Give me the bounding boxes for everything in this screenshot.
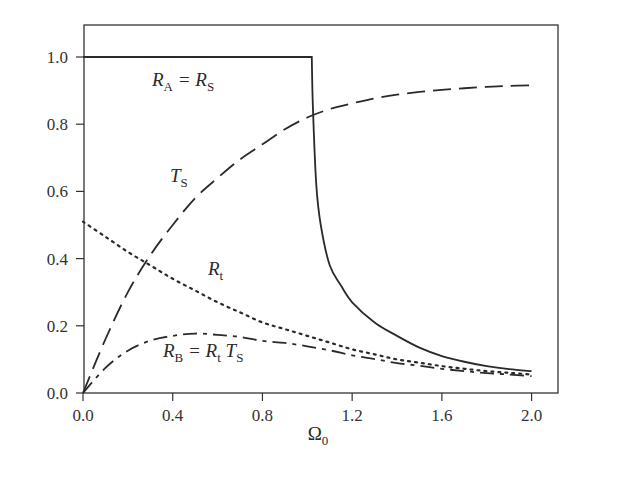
x-tick-label: 0.0 bbox=[72, 406, 93, 425]
y-tick-label: 0.6 bbox=[47, 182, 68, 201]
series-r-b-r-t-t-s bbox=[83, 334, 532, 393]
x-axis: 0.00.40.81.21.62.0 bbox=[72, 393, 542, 425]
y-tick-label: 0.4 bbox=[47, 250, 69, 269]
y-tick-label: 1.0 bbox=[47, 48, 68, 67]
y-tick-label: 0.2 bbox=[47, 317, 68, 336]
series-r-a-r-s bbox=[83, 57, 532, 371]
line-chart: 0.00.20.40.60.81.0 0.00.40.81.21.62.0 RA… bbox=[0, 0, 644, 480]
label-1: TS bbox=[170, 165, 188, 190]
y-tick-label: 0.8 bbox=[47, 115, 68, 134]
curve-labels: RA = RSTSRtRB = Rt TS bbox=[151, 69, 243, 365]
x-tick-label: 0.4 bbox=[162, 406, 184, 425]
y-axis: 0.00.20.40.60.81.0 bbox=[47, 48, 84, 403]
label-3: RB = Rt TS bbox=[162, 340, 243, 365]
series-r-t bbox=[83, 222, 532, 375]
label-2: Rt bbox=[207, 258, 224, 283]
x-tick-label: 0.8 bbox=[252, 406, 273, 425]
label-0: RA = RS bbox=[151, 69, 214, 94]
x-axis-label: Ω0 bbox=[308, 423, 329, 448]
x-tick-label: 1.6 bbox=[431, 406, 452, 425]
x-tick-label: 1.2 bbox=[342, 406, 363, 425]
plot-curves bbox=[83, 57, 532, 393]
x-tick-label: 2.0 bbox=[521, 406, 542, 425]
y-tick-label: 0.0 bbox=[47, 384, 68, 403]
